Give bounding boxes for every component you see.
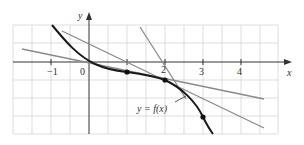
function-graph: −1 0 2 3 4 x y y = f(x) bbox=[0, 0, 304, 145]
tick-label-4: 4 bbox=[237, 66, 242, 77]
tick-label-neg1: −1 bbox=[47, 66, 58, 77]
point-x1 bbox=[124, 69, 129, 74]
curve-f bbox=[52, 25, 213, 134]
y-axis-label: y bbox=[77, 10, 83, 21]
tick-label-3: 3 bbox=[199, 66, 204, 77]
tick-label-2: 2 bbox=[161, 64, 166, 75]
y-axis-arrow-icon bbox=[86, 12, 92, 20]
point-x3 bbox=[200, 114, 205, 119]
x-axis-arrow-icon bbox=[284, 59, 292, 65]
grid bbox=[13, 25, 278, 134]
curve-label: y = f(x) bbox=[136, 103, 168, 115]
point-x2 bbox=[162, 77, 167, 82]
tick-label-0: 0 bbox=[80, 66, 85, 77]
x-axis-label: x bbox=[286, 67, 292, 78]
